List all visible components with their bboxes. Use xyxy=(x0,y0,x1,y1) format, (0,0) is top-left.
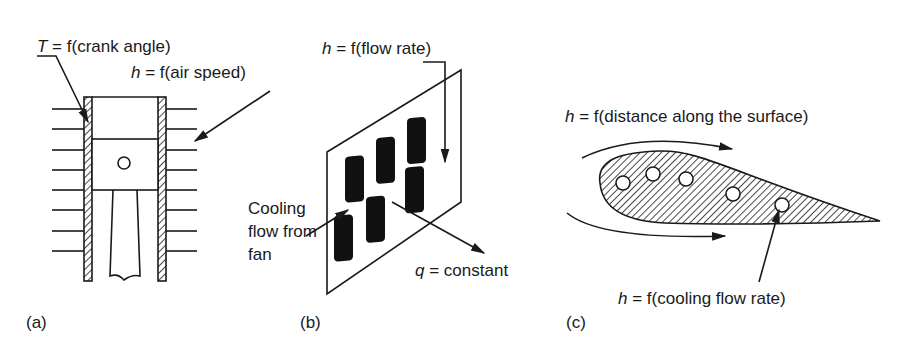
equation-text: = f(distance along the surface) xyxy=(574,107,808,126)
leader-flow-rate xyxy=(423,62,445,162)
cylinder-wall-left xyxy=(84,97,92,281)
panel-c-airfoil xyxy=(567,141,880,282)
equation-text: = f(air speed) xyxy=(140,63,245,82)
airfoil-body xyxy=(600,151,880,224)
label-surface-distance: h = f(distance along the surface) xyxy=(565,108,808,125)
leader-heat-flux xyxy=(392,202,484,253)
leader-air-speed xyxy=(195,91,270,141)
cooling-fins-right xyxy=(166,109,197,251)
label-cooling-flow-rate: h = f(cooling flow rate) xyxy=(618,290,786,307)
equation-text: = f(cooling flow rate) xyxy=(627,289,785,308)
cooling-fins-left xyxy=(52,109,84,251)
panel-tag-a: (a) xyxy=(26,314,47,331)
cylinder-wall-right xyxy=(158,97,166,281)
variable-T: T xyxy=(37,37,47,56)
leader-temperature xyxy=(37,56,88,122)
label-air-speed: h = f(air speed) xyxy=(131,64,246,81)
panel-tag-b: (b) xyxy=(300,314,321,331)
piston xyxy=(92,139,158,190)
panel-tag-c: (c) xyxy=(566,314,586,331)
label-temperature: T = f(crank angle) xyxy=(37,38,171,55)
equation-text: = f(crank angle) xyxy=(47,37,170,56)
connecting-rod xyxy=(110,190,140,280)
label-heat-flux: q = constant xyxy=(415,262,508,279)
panel-a-cylinder xyxy=(37,56,270,281)
equation-text: = f(flow rate) xyxy=(331,39,431,58)
label-cooling-flow: Cooling flow from fan xyxy=(248,197,318,266)
equation-text: = constant xyxy=(424,261,508,280)
label-flow-rate: h = f(flow rate) xyxy=(322,40,431,57)
panel-b-board xyxy=(306,62,484,294)
